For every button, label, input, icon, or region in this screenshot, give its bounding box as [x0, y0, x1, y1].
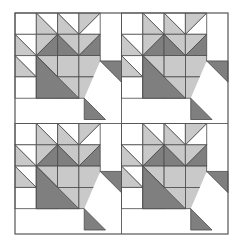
patch-r2c2 [58, 166, 79, 187]
patch-r0c0 [122, 13, 143, 34]
patch-r2c2 [164, 166, 185, 187]
patch-r0c0 [15, 13, 36, 34]
patch-r3c0 [122, 77, 143, 98]
patch-r0c0 [122, 124, 143, 145]
patch-r3c0 [122, 187, 143, 208]
quilt-diagram [0, 0, 240, 247]
quilt-canvas [0, 0, 240, 247]
patch-r2c2 [58, 56, 79, 77]
patch-r3c0 [15, 77, 36, 98]
patch-r2c2 [164, 56, 185, 77]
patch-r3c0 [15, 187, 36, 208]
patch-r0c0 [15, 124, 36, 145]
